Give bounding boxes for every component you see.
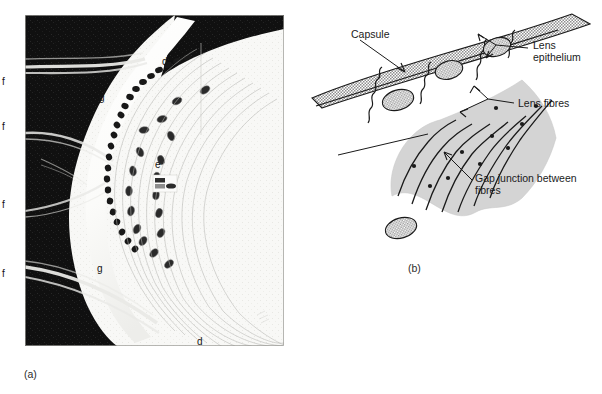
micrograph-svg: [25, 15, 284, 346]
panel-b: Capsule Lens epithelium Lens fibres Gap …: [300, 0, 602, 394]
epithelium-arrowhead-1: [478, 34, 484, 41]
label-gap-junction: Gap junction between fibres: [475, 172, 577, 197]
micrograph-image: f f f f d g e g d: [25, 15, 284, 346]
label-capsule: Capsule: [351, 28, 390, 40]
nucleus-oval: [383, 214, 419, 242]
micrograph-label-d-top: d: [162, 57, 168, 67]
gap-junction-dot: [506, 146, 510, 150]
panel-b-caption: (b): [408, 262, 421, 274]
micrograph-label-f4: f: [2, 269, 5, 279]
label-lens-fibres: Lens fibres: [518, 97, 569, 109]
gap-junction-dot: [490, 134, 494, 138]
gap-junction-dot: [494, 106, 498, 110]
nucleus-oval: [380, 86, 416, 114]
gap-junction-dot: [428, 184, 432, 188]
panel-a-caption: (a): [24, 368, 37, 380]
label-lens-epithelium: Lens epithelium: [533, 39, 581, 64]
gap-junction-dot: [460, 150, 464, 154]
figure-root: f f f f d g e g d (a): [0, 0, 602, 394]
micrograph-label-e: e: [155, 160, 161, 170]
gap-junction-dot: [478, 162, 482, 166]
micrograph-label-g-upper: g: [99, 93, 105, 103]
micrograph-label-f1: f: [2, 77, 5, 87]
gap-junction-dot: [446, 176, 450, 180]
micrograph-content: [25, 15, 284, 346]
micrograph-label-f2: f: [2, 122, 5, 132]
micrograph-label-f3: f: [2, 200, 5, 210]
fibres-arrowhead-2: [470, 86, 480, 93]
capsule-leader: [360, 40, 405, 72]
micrograph-label-g-lower: g: [97, 264, 103, 274]
micrograph-label-d-bottom: d: [197, 337, 203, 347]
panel-a: f f f f d g e g d (a): [0, 0, 300, 394]
inset-detail-e: [153, 175, 177, 192]
gap-junction-dot: [520, 122, 524, 126]
gap-junction-dot: [412, 164, 416, 168]
